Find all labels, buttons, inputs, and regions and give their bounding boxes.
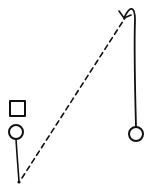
dribble-path-left [16, 139, 19, 181]
player-circle-right-icon [129, 127, 143, 141]
player-square-icon [10, 101, 25, 116]
cut-path-right [124, 9, 136, 127]
player-circle-left-icon [9, 125, 23, 139]
endpoint-dot-icon [17, 180, 20, 183]
pass-line-dashed [22, 18, 125, 178]
play-diagram [0, 0, 152, 195]
